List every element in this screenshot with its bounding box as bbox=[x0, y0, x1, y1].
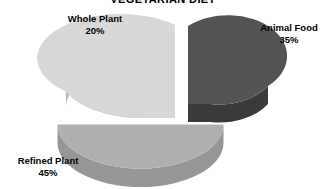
pie-label-refined-plant-value: 45% bbox=[2, 167, 94, 179]
pie-label-whole-plant-value: 20% bbox=[55, 25, 135, 37]
pie-label-whole-plant-name: Whole Plant bbox=[55, 13, 135, 25]
pie-label-refined-plant-name: Refined Plant bbox=[2, 155, 94, 167]
pie-label-whole-plant: Whole Plant 20% bbox=[55, 13, 135, 36]
pie-chart-figure: VEGETARIAN DIET Whole Plant bbox=[0, 0, 326, 189]
pie-label-refined-plant: Refined Plant 45% bbox=[2, 155, 94, 178]
pie-label-animal-food: Animal Food 35% bbox=[254, 22, 324, 45]
pie-label-animal-food-value: 35% bbox=[254, 34, 324, 46]
pie-label-animal-food-name: Animal Food bbox=[254, 22, 324, 34]
